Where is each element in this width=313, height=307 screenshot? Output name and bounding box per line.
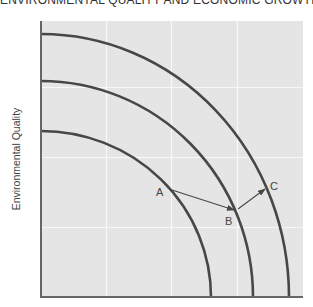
point-c-label: C: [270, 180, 278, 192]
point-a-label: A: [156, 186, 164, 198]
chart-plot: A B C: [0, 0, 313, 307]
point-b-label: B: [225, 215, 232, 227]
